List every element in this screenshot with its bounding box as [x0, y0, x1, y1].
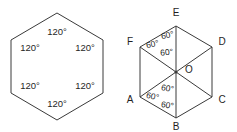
geometry-figure: 120° 120° 120° 120° 120° 120° E D C B A …: [0, 0, 237, 132]
angle-label-aob: 60°: [160, 82, 174, 94]
angle-label-ao-lower: 60°: [145, 90, 160, 102]
right-hexagon-angle-labels: 60° 60° 60° 60° 60° 60°: [0, 0, 237, 132]
angle-label-eof: 60°: [160, 29, 175, 41]
angle-label-fo-upper: 60°: [145, 38, 160, 50]
angle-label-foa: 60°: [160, 46, 174, 57]
angle-label-boc: 60°: [160, 99, 174, 111]
